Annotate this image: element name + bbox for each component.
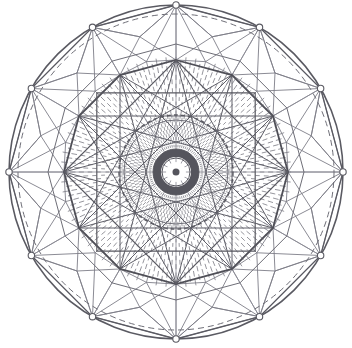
dash-tick [189, 94, 190, 97]
outer-vertex-marker [6, 169, 12, 175]
outer-vertex-marker [256, 24, 262, 30]
outer-vertex-marker [89, 313, 95, 319]
core-dot [173, 169, 180, 176]
outer-vertex-marker [340, 169, 346, 175]
dash-tick [98, 158, 101, 159]
outer-vertex-marker [173, 2, 179, 8]
dash-tick [162, 94, 163, 97]
dash-tick [98, 185, 101, 186]
outer-vertex-marker [28, 85, 34, 91]
dash-tick [189, 247, 190, 250]
dash-tick [251, 185, 254, 186]
outer-vertex-marker [89, 24, 95, 30]
dash-tick [162, 247, 163, 250]
mandala-figure [0, 0, 352, 348]
outer-vertex-marker [256, 313, 262, 319]
dash-tick [251, 158, 254, 159]
outer-vertex-marker [28, 252, 34, 258]
outer-vertex-marker [317, 85, 323, 91]
mandala-canvas [0, 0, 352, 348]
outer-vertex-marker [173, 336, 179, 342]
outer-vertex-marker [317, 252, 323, 258]
